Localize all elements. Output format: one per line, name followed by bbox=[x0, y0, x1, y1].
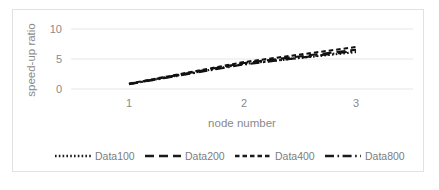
y-tick-label-0: 0 bbox=[56, 83, 62, 95]
legend-label-0: Data100 bbox=[95, 150, 135, 162]
y-tick-label-5: 5 bbox=[56, 53, 62, 65]
legend-label-3: Data800 bbox=[365, 150, 405, 162]
legend-label-1: Data200 bbox=[185, 150, 225, 162]
y-tick-label-10: 10 bbox=[50, 23, 62, 35]
chart-figure: 10 5 0 speed-up ratio 1 2 3 node number … bbox=[0, 0, 439, 190]
series-line-2 bbox=[129, 47, 356, 84]
x-tick-label-2: 2 bbox=[241, 97, 247, 109]
x-tick-label-3: 3 bbox=[353, 97, 359, 109]
x-tick-label-1: 1 bbox=[126, 97, 132, 109]
chart-frame: 10 5 0 speed-up ratio 1 2 3 node number … bbox=[12, 9, 424, 172]
series-line-3 bbox=[129, 51, 356, 84]
legend-label-2: Data400 bbox=[275, 150, 315, 162]
x-axis-title: node number bbox=[208, 117, 276, 129]
chart-plot-area: 10 5 0 speed-up ratio 1 2 3 node number … bbox=[13, 10, 423, 171]
chart-legend: Data100 Data200 Data400 Data800 bbox=[55, 150, 405, 162]
y-axis-title: speed-up ratio bbox=[25, 23, 37, 97]
series-line-0 bbox=[129, 52, 356, 84]
series-group bbox=[129, 47, 356, 84]
